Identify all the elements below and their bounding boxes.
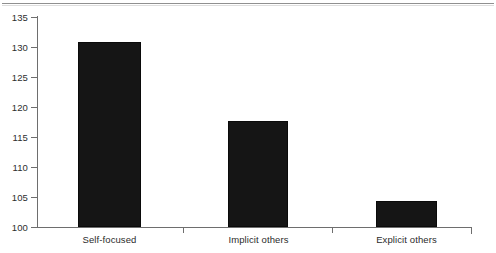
y-tick-label-115: 115 xyxy=(13,131,28,144)
y-tick-135: 135 xyxy=(31,17,37,18)
y-tick-125: 125 xyxy=(31,77,37,78)
x-label-implicit-others: Implicit others xyxy=(208,233,309,246)
plot-area: 100 105 110 115 120 125 130 135 Self xyxy=(0,0,496,253)
bar-explicit-others xyxy=(376,201,437,227)
x-label-explicit-others: Explicit others xyxy=(356,233,457,246)
y-tick-label-100: 100 xyxy=(12,221,28,234)
y-axis-line xyxy=(37,16,38,228)
bar-chart-figure: 100 105 110 115 120 125 130 135 Self xyxy=(0,0,496,253)
y-tick-label-120: 120 xyxy=(12,101,28,114)
y-tick-115: 115 xyxy=(31,137,37,138)
x-tick-separator-1 xyxy=(183,227,184,233)
y-tick-label-110: 110 xyxy=(13,161,28,174)
y-tick-105: 105 xyxy=(31,197,37,198)
x-axis-end-tick xyxy=(471,227,472,234)
y-tick-100: 100 xyxy=(31,227,37,228)
x-axis-line xyxy=(37,227,472,228)
x-tick-separator-2 xyxy=(332,227,333,233)
y-tick-label-135: 135 xyxy=(12,11,28,24)
bar-self-focused xyxy=(78,42,141,227)
bar-implicit-others xyxy=(228,121,288,227)
y-tick-120: 120 xyxy=(31,107,37,108)
y-tick-label-130: 130 xyxy=(12,41,28,54)
y-tick-label-105: 105 xyxy=(12,191,28,204)
y-tick-label-125: 125 xyxy=(12,71,28,84)
x-label-self-focused: Self-focused xyxy=(59,233,160,246)
y-tick-110: 110 xyxy=(31,167,37,168)
y-tick-130: 130 xyxy=(31,47,37,48)
